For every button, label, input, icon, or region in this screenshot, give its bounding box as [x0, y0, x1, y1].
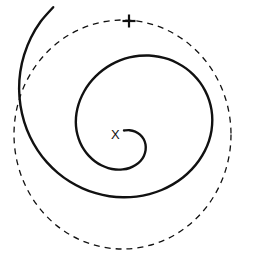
spiral-endpoint-marker-plus — [123, 15, 136, 28]
figure-canvas: X — [0, 0, 253, 270]
spiral-origin-marker-x: X — [111, 127, 120, 142]
spiral-figure-svg: X — [0, 0, 253, 270]
bounding-circle-dashed — [14, 20, 231, 249]
spiral-path — [19, 7, 212, 197]
